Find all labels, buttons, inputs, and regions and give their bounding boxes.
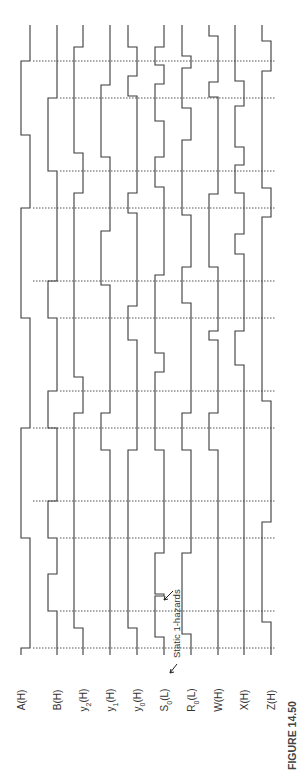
trace-X bbox=[235, 25, 244, 655]
trace-R0 bbox=[182, 25, 191, 655]
signal-label-A: A(H) bbox=[16, 690, 27, 711]
signal-label-y0: y0(H) bbox=[132, 689, 146, 712]
hazard-annotation: Static 1-hazards bbox=[164, 589, 182, 673]
hazard-arrow-lower bbox=[170, 664, 177, 673]
trace-W bbox=[209, 25, 218, 655]
trace-Z bbox=[262, 25, 271, 655]
hazard-label: Static 1-hazards bbox=[171, 589, 182, 658]
signal-label-y1: y1(H) bbox=[105, 689, 119, 712]
signal-label-y2: y2(H) bbox=[78, 689, 92, 712]
trace-y1 bbox=[101, 25, 110, 655]
trace-B bbox=[48, 25, 57, 655]
signal-label-W: W(H) bbox=[213, 688, 224, 711]
trace-A bbox=[21, 25, 30, 655]
signal-traces bbox=[21, 25, 271, 655]
trace-y0 bbox=[128, 25, 137, 655]
signal-labels: A(H)B(H)y2(H)y1(H)y0(H)S0(L)R0(L)W(H)X(H… bbox=[16, 688, 277, 711]
figure-caption: FIGURE 14.50 bbox=[286, 701, 298, 770]
signal-label-B: B(H) bbox=[52, 690, 63, 711]
trace-S0 bbox=[155, 25, 164, 655]
trace-y2 bbox=[74, 25, 83, 655]
timing-diagram: A(H)B(H)y2(H)y1(H)y0(H)S0(L)R0(L)W(H)X(H… bbox=[0, 0, 298, 777]
signal-label-S0: S0(L) bbox=[159, 689, 173, 712]
signal-label-R0: R0(L) bbox=[186, 688, 200, 711]
signal-label-Z: Z(H) bbox=[266, 690, 277, 710]
signal-label-X: X(H) bbox=[239, 690, 250, 711]
